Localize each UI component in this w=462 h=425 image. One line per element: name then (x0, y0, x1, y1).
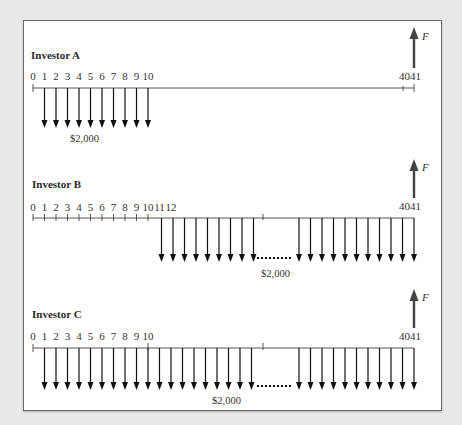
amount-label: $2,000 (212, 395, 241, 406)
tick-label: 2 (53, 201, 59, 213)
tick-label: 7 (111, 330, 117, 342)
panel-investor-b: Investor B 0123456789101112 $2,000 4041 … (30, 159, 429, 279)
tick-labels: 012345678910 (30, 70, 154, 82)
tick-labels: 012345678910 (30, 330, 154, 342)
tick-label: 3 (65, 70, 71, 82)
panel-title: Investor A (31, 49, 80, 61)
cash-flow-diagrams: Investor A 012345678910 $2,000 4041 F In… (0, 0, 462, 425)
tick-label: 6 (99, 330, 105, 342)
tick-label: 6 (99, 70, 105, 82)
tick-label: 4 (76, 201, 82, 213)
future-value-arrow-icon (410, 289, 419, 328)
tick-marks (33, 214, 148, 221)
future-value-label: F (421, 30, 429, 42)
tick-label: 4 (76, 70, 82, 82)
tick-label: 4 (76, 330, 82, 342)
tick-label: 8 (122, 201, 128, 213)
tick-label: 5 (88, 70, 94, 82)
tick-label: 2 (53, 330, 59, 342)
future-value-label: F (421, 161, 429, 173)
tick-label: 5 (88, 201, 94, 213)
tick-label: 1 (42, 70, 48, 82)
end-period-label: 4041 (399, 70, 421, 82)
tick-label: 7 (111, 70, 117, 82)
tick-label: 5 (88, 330, 94, 342)
tick-label: 9 (134, 70, 140, 82)
tick-label: 1 (42, 330, 48, 342)
tick-label: 6 (99, 201, 105, 213)
future-value-arrow-icon (410, 27, 419, 68)
panel-title: Investor C (32, 308, 82, 320)
tick-label: 10 (143, 201, 155, 213)
amount-label: $2,000 (261, 268, 290, 279)
amount-label: $2,000 (70, 133, 99, 144)
deposit-arrows (42, 348, 418, 390)
tick-label: 10 (143, 70, 155, 82)
deposit-arrows (159, 218, 418, 262)
tick-label: 7 (111, 201, 117, 213)
end-period-label: 4041 (399, 200, 421, 212)
tick-label: 3 (65, 330, 71, 342)
tick-label: 10 (143, 330, 155, 342)
tick-label: 12 (166, 201, 177, 213)
future-value-label: F (421, 291, 429, 303)
tick-label: 3 (65, 201, 71, 213)
future-value-arrow-icon (410, 159, 419, 198)
end-period-label: 4041 (399, 330, 421, 342)
tick-label: 8 (122, 70, 128, 82)
tick-label: 11 (154, 201, 165, 213)
deposit-arrows (42, 88, 152, 128)
tick-label: 0 (30, 201, 36, 213)
tick-label: 9 (134, 201, 140, 213)
tick-label: 1 (42, 201, 48, 213)
panel-title: Investor B (32, 178, 82, 190)
tick-label: 0 (30, 330, 36, 342)
tick-label: 9 (134, 330, 140, 342)
tick-label: 2 (53, 70, 59, 82)
tick-labels: 0123456789101112 (30, 201, 176, 213)
tick-label: 8 (122, 330, 128, 342)
panel-investor-c: Investor C 012345678910 $2,000 4041 F (30, 289, 429, 406)
panel-investor-a: Investor A 012345678910 $2,000 4041 F (30, 27, 429, 144)
tick-label: 0 (30, 70, 36, 82)
